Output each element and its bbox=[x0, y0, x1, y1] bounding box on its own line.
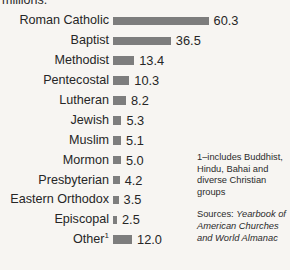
bar-row: Baptist36.5 bbox=[0, 31, 290, 51]
bar-row: Lutheran8.2 bbox=[0, 91, 290, 111]
side-notes: 1–includes Buddhist, Hindu, Bahai and di… bbox=[197, 152, 290, 244]
bar-value-label: 60.3 bbox=[209, 14, 239, 27]
footnote-marker: 1 bbox=[105, 231, 109, 240]
bar-value-label: 36.5 bbox=[171, 34, 201, 47]
bar bbox=[113, 156, 121, 165]
bar-row-label: Episcopal bbox=[0, 213, 113, 226]
bar-row: Methodist13.4 bbox=[0, 51, 290, 71]
bar-row-label: Pentecostal bbox=[0, 74, 113, 87]
bar bbox=[113, 116, 121, 125]
bar-value-label: 2.5 bbox=[117, 213, 140, 226]
bar bbox=[113, 176, 120, 185]
bar bbox=[113, 136, 121, 145]
bar-row-label: Mormon bbox=[0, 154, 113, 167]
bar-row-label: Roman Catholic bbox=[0, 14, 113, 27]
bar bbox=[113, 17, 209, 26]
bar-value-label: 8.2 bbox=[126, 94, 149, 107]
bar-row-label: Lutheran bbox=[0, 94, 113, 107]
bar-value-label: 3.5 bbox=[119, 193, 142, 206]
bar-value-label: 5.0 bbox=[121, 154, 144, 167]
bar-row: Pentecostal10.3 bbox=[0, 71, 290, 91]
units-caption: millions. bbox=[0, 0, 290, 6]
bar-value-label: 10.3 bbox=[129, 74, 159, 87]
bar-row-label: Methodist bbox=[0, 54, 113, 67]
bar-value-label: 5.3 bbox=[121, 114, 144, 127]
bar-row: Jewish5.3 bbox=[0, 110, 290, 130]
footnote-text: 1–includes Buddhist, Hindu, Bahai and di… bbox=[197, 152, 290, 198]
sources-block: Sources: Yearbook of American Churches a… bbox=[197, 209, 290, 244]
bar bbox=[113, 56, 134, 65]
bar-value-label: 4.2 bbox=[120, 174, 143, 187]
bar-chart: millions. Roman Catholic60.3Baptist36.5M… bbox=[0, 0, 290, 270]
bar-row: Roman Catholic60.3 bbox=[0, 11, 290, 31]
bar-row-label: Other1 bbox=[0, 233, 113, 246]
bar-value-label: 12.0 bbox=[132, 233, 162, 246]
bar bbox=[113, 37, 171, 46]
sources-label: Sources: bbox=[197, 209, 236, 219]
bar-row: Muslim5.1 bbox=[0, 130, 290, 150]
bar-row-label: Eastern Orthodox bbox=[0, 193, 113, 206]
bar bbox=[113, 96, 126, 105]
bar-value-label: 13.4 bbox=[134, 54, 164, 67]
bar-row-label: Baptist bbox=[0, 34, 113, 47]
bar-row-label: Muslim bbox=[0, 134, 113, 147]
units-caption-text: millions. bbox=[0, 0, 290, 6]
bar-row-label: Jewish bbox=[0, 114, 113, 127]
bar bbox=[113, 235, 132, 244]
bar bbox=[113, 76, 129, 85]
bar-value-label: 5.1 bbox=[121, 134, 144, 147]
bar-row-label: Presbyterian bbox=[0, 174, 113, 187]
